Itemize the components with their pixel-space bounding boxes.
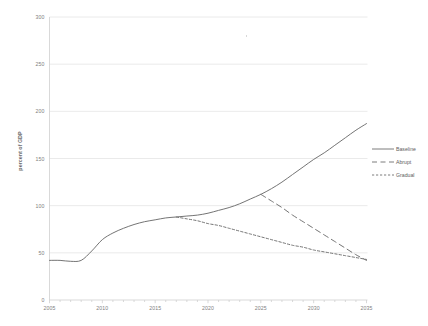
dotted-line-icon [372,171,394,179]
legend-item-label: Baseline [394,146,416,152]
y-axis-tick-label: 200 [19,108,45,114]
legend-item[interactable]: Abrupt [372,155,428,168]
y-axis-title: percent of GDP [17,121,23,181]
x-axis-ticks [50,300,367,303]
image-artifact-speck [246,35,247,37]
x-axis-tick-label: 2005 [35,305,65,311]
chart-legend: Baseline Abrupt Gradual [372,142,428,181]
chart-figure: 050100150200250300 200520102015202020252… [0,0,428,326]
gridlines [50,17,368,253]
x-axis-tick-label: 2035 [352,305,382,311]
chart-plot-area [0,0,428,326]
x-axis-tick-label: 2010 [87,305,117,311]
dashed-line-icon [372,158,394,166]
solid-line-icon [372,145,394,153]
legend-item[interactable]: Baseline [372,142,428,155]
legend-item-label: Gradual [394,172,414,178]
y-axis-tick-label: 300 [19,14,45,20]
y-axis-tick-label: 250 [19,61,45,67]
legend-item[interactable]: Gradual [372,168,428,181]
y-axis-tick-label: 0 [19,297,45,303]
y-axis-tick-label: 50 [19,250,45,256]
x-axis-tick-label: 2020 [193,305,223,311]
x-axis-tick-label: 2025 [246,305,276,311]
series-line-baseline [50,124,367,262]
x-axis-tick-label: 2015 [140,305,170,311]
x-axis-tick-label: 2030 [299,305,329,311]
y-axis-tick-label: 100 [19,203,45,209]
legend-item-label: Abrupt [394,159,411,165]
data-series-group [50,124,367,262]
